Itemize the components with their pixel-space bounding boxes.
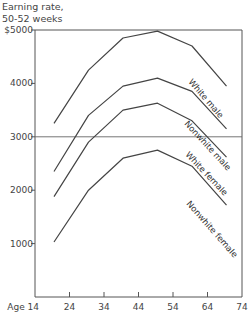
y-tick-label: 2000 [10, 185, 33, 195]
series-label-nonwhite-male: Nonwhite male [183, 119, 234, 173]
y-tick-label: 3000 [10, 132, 33, 142]
y-axis: 1000200030004000$5000 [4, 25, 35, 249]
y-tick-label: $5000 [4, 25, 33, 35]
series-labels: White maleNonwhite maleWhite femaleNonwh… [183, 77, 240, 260]
y-tick-label: 4000 [10, 78, 33, 88]
x-tick-label: 34 [98, 302, 110, 312]
series-label-white-male: White male [186, 77, 225, 120]
x-tick-label: Age 14 [7, 302, 39, 312]
x-tick-label: 54 [167, 302, 179, 312]
series-line-white-male [54, 31, 227, 123]
x-tick-label: 44 [133, 302, 145, 312]
y-tick-label: 1000 [10, 239, 33, 249]
x-tick-label: 74 [236, 302, 248, 312]
series-label-nonwhite-female: Nonwhite female [185, 199, 240, 260]
x-axis: Age 14243444546474 [7, 292, 248, 312]
line-chart: 1000200030004000$5000 Age 14243444546474… [0, 0, 252, 318]
x-tick-label: 64 [202, 302, 214, 312]
x-tick-label: 24 [64, 302, 76, 312]
series-line-white-female [54, 103, 227, 196]
plot-frame [35, 30, 242, 297]
